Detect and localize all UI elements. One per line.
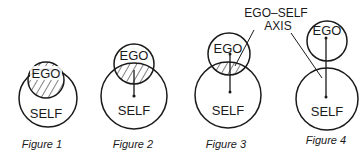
axis-label-line2: AXIS bbox=[264, 19, 291, 33]
ego-self-axis-label: EGO–SELF AXIS bbox=[244, 6, 307, 33]
ego-label: EGO bbox=[120, 48, 149, 63]
ego-label: EGO bbox=[214, 41, 243, 56]
self-label: SELF bbox=[212, 103, 245, 118]
axis-label-line1: EGO–SELF bbox=[244, 6, 307, 20]
figure-caption: Figure 4 bbox=[306, 134, 346, 146]
self-label: SELF bbox=[30, 106, 63, 121]
ego-label: EGO bbox=[32, 66, 61, 81]
figure-caption: Figure 3 bbox=[206, 138, 247, 150]
self-label: SELF bbox=[118, 103, 151, 118]
self-circle bbox=[296, 68, 358, 130]
ego-self-diagram: EGO SELF Figure 1 EGO SELF Figure 2 EGO … bbox=[0, 0, 364, 158]
figure-caption: Figure 1 bbox=[22, 138, 62, 150]
figure-2: EGO SELF Figure 2 bbox=[101, 44, 167, 150]
figure-4: EGO SELF Figure 4 bbox=[291, 21, 358, 146]
figure-3: EGO SELF Figure 3 bbox=[195, 30, 261, 150]
self-label: SELF bbox=[311, 104, 344, 119]
figure-caption: Figure 2 bbox=[113, 138, 153, 150]
ego-label: EGO bbox=[313, 23, 342, 38]
figure-1: EGO SELF Figure 1 bbox=[19, 62, 77, 150]
